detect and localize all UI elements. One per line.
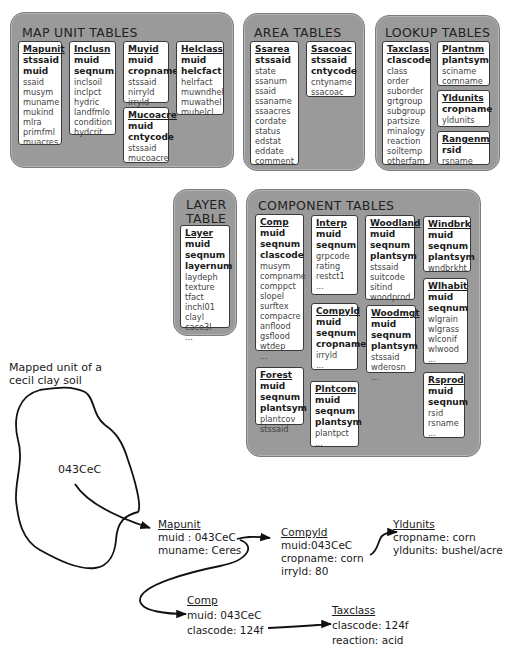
caption-line: cecil clay soil — [9, 374, 102, 387]
example-line: muid: 043CeC — [187, 608, 264, 623]
example-compyld: Compyld muid:043CeC cropname: corn irryl… — [281, 526, 364, 578]
example-title: Mapunit — [158, 518, 201, 530]
example-line: yldunits: bushel/acre — [393, 544, 503, 557]
polygon-label: 043CeC — [58, 463, 101, 476]
example-yldunits: Yldunits cropname: corn yldunits: bushel… — [393, 518, 503, 557]
example-line: cropname: corn — [281, 552, 364, 565]
example-line: muid : 043CeC — [158, 531, 241, 544]
example-line: reaction: acid — [332, 633, 409, 648]
example-line: cropname: corn — [393, 531, 503, 544]
example-mapunit: Mapunit muid : 043CeC muname: Ceres — [158, 518, 241, 557]
example-taxclass: Taxclass clascode: 124f reaction: acid — [332, 603, 409, 648]
example-title: Comp — [187, 594, 218, 606]
example-comp: Comp muid: 043CeC clascode: 124f — [187, 593, 264, 638]
example-line: muname: Ceres — [158, 544, 241, 557]
example-line: irryld: 80 — [281, 565, 364, 578]
example-line: clascode: 124f — [332, 618, 409, 633]
example-title: Compyld — [281, 526, 327, 538]
example-line: muid:043CeC — [281, 539, 364, 552]
example-title: Taxclass — [332, 604, 375, 616]
caption-line: Mapped unit of a — [9, 361, 102, 374]
example-line: clascode: 124f — [187, 623, 264, 638]
map-caption: Mapped unit of a cecil clay soil — [9, 361, 102, 387]
map-unit-polygon — [16, 388, 139, 569]
example-title: Yldunits — [393, 518, 435, 530]
